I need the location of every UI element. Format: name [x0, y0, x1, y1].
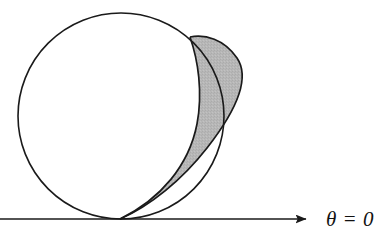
axis-label-theta-zero: θ = 0 [326, 203, 386, 235]
cardioid-inner-arc [120, 37, 200, 219]
figure-container: θ = 0 [0, 0, 386, 239]
